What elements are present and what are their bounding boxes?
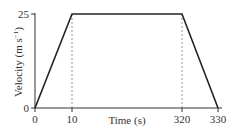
y-tick-label-0: 0 (24, 102, 30, 114)
y-axis-title-main: Velocity (m s (12, 38, 25, 97)
velocity-line (35, 14, 218, 108)
x-tick-label-0: 0 (32, 113, 38, 125)
y-axis-title: Velocity (m s−1) (12, 27, 25, 97)
x-tick-label-330: 330 (210, 113, 227, 125)
velocity-time-graph: 25 0 0 10 320 330 Time (s) Velocity (m s… (0, 0, 234, 132)
x-tick-label-10: 10 (67, 113, 79, 125)
y-axis-title-close: ) (12, 27, 25, 31)
svg-text:Velocity (m s−1): Velocity (m s−1) (12, 27, 25, 97)
y-tick-label-25: 25 (18, 8, 30, 20)
x-tick-label-320: 320 (174, 113, 191, 125)
x-axis-title: Time (s) (108, 114, 146, 127)
